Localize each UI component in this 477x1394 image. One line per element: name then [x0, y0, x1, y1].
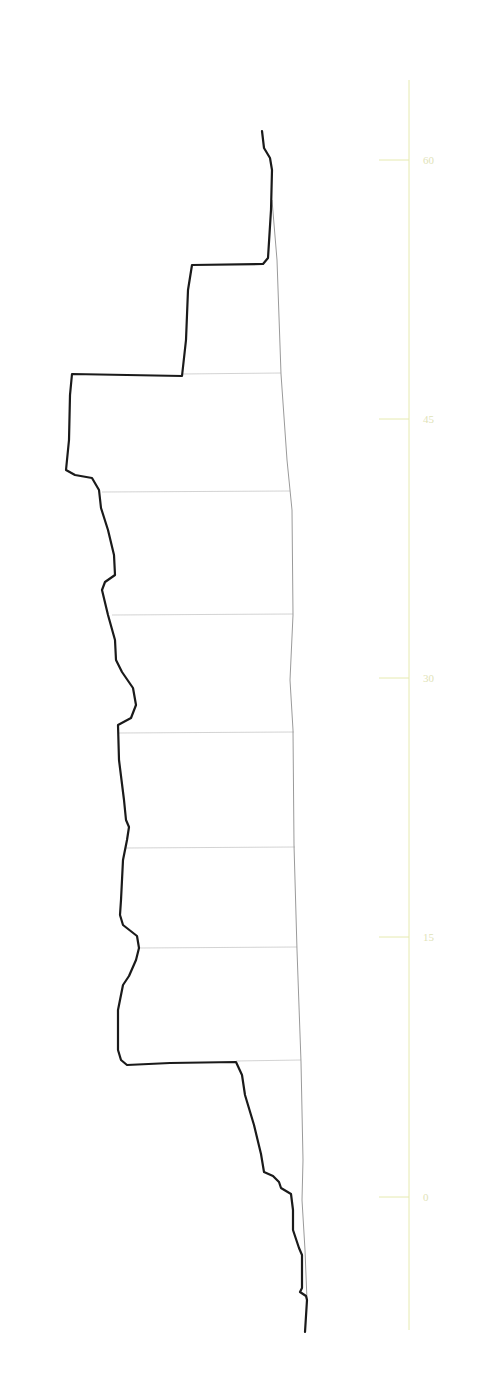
profile-chart: 604530150 — [0, 0, 477, 1394]
tick-label: 45 — [423, 413, 435, 425]
profile-curve — [66, 131, 307, 1332]
y-axis-ticks: 604530150 — [379, 154, 435, 1203]
baseline-curve — [272, 200, 307, 1300]
y-axis: 604530150 — [379, 80, 435, 1330]
divider-line — [119, 732, 294, 733]
tick-label: 60 — [423, 154, 435, 166]
tick-label: 15 — [423, 931, 435, 943]
divider-line — [139, 947, 297, 948]
tick-label: 0 — [423, 1191, 429, 1203]
divider-line — [126, 847, 295, 848]
tick-label: 30 — [423, 672, 435, 684]
divider-line — [112, 614, 293, 615]
divider-line — [102, 491, 290, 492]
divider-line — [182, 373, 281, 374]
divider-line — [236, 1060, 301, 1061]
